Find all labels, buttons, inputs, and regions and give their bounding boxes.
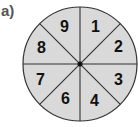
section-label: 6: [61, 90, 70, 107]
spinner-center-pin: [78, 62, 83, 67]
section-label: 7: [36, 71, 45, 88]
section-label: 1: [91, 18, 100, 35]
spinner-diagram: 1 2 3 4 6 7 8 9: [0, 0, 138, 127]
section-label: 4: [90, 92, 99, 109]
section-label: 3: [114, 71, 123, 88]
section-label: 9: [60, 18, 69, 35]
section-label: 8: [37, 39, 46, 56]
section-label: 2: [114, 38, 123, 55]
